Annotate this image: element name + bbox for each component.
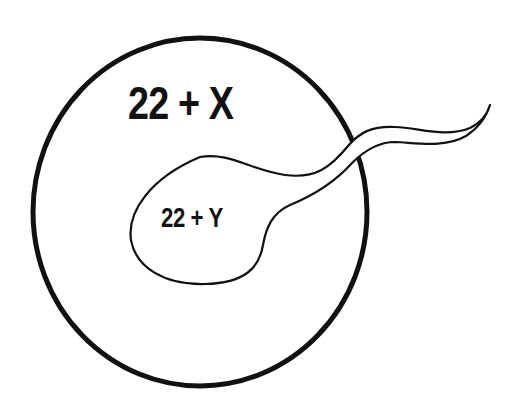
sperm-chromosome-label: 22 + Y [161, 203, 223, 234]
egg-chromosome-label: 22 + X [128, 76, 233, 130]
sperm-cell [131, 105, 490, 284]
fertilization-diagram [0, 0, 512, 396]
